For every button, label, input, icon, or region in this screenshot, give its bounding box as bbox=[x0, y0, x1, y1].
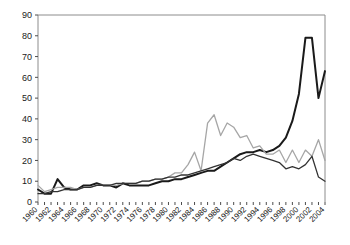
line-chart-figure: 0102030405060708090 19601962196419661968… bbox=[0, 0, 350, 245]
plot-border bbox=[38, 15, 325, 202]
y-axis-tick-labels: 0102030405060708090 bbox=[22, 10, 32, 207]
y-tick-label: 30 bbox=[22, 135, 32, 145]
y-tick-label: 50 bbox=[22, 93, 32, 103]
y-tick-label: 90 bbox=[22, 10, 32, 20]
series-line-series-medium-black bbox=[38, 154, 325, 193]
y-tick-label: 80 bbox=[22, 31, 32, 41]
x-axis-tick-labels: 1960196219641966196819701972197419761978… bbox=[20, 205, 326, 224]
x-axis-tick-marks bbox=[38, 202, 325, 205]
y-tick-label: 20 bbox=[22, 156, 32, 166]
y-tick-label: 70 bbox=[22, 52, 32, 62]
plot-frame bbox=[38, 15, 325, 202]
x-tick-label: 2004 bbox=[307, 205, 326, 224]
series-line-series-thick-black bbox=[38, 38, 325, 194]
y-tick-label: 40 bbox=[22, 114, 32, 124]
chart-canvas: 0102030405060708090 19601962196419661968… bbox=[0, 0, 350, 245]
y-tick-label: 60 bbox=[22, 73, 32, 83]
data-series-group bbox=[38, 38, 325, 194]
y-tick-label: 10 bbox=[22, 176, 32, 186]
